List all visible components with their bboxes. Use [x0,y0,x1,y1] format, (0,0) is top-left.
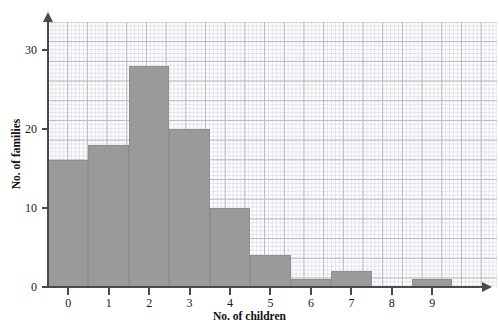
y-axis-arrow-icon [43,12,53,22]
x-axis-title: No. of children [0,310,499,322]
x-tick-label-9: 9 [417,297,447,309]
y-tick-label-0: 0 [0,281,37,293]
y-axis-title: No. of families [10,94,22,214]
plot-area [48,22,497,287]
x-tick-label-4: 4 [215,297,245,309]
x-tick-8 [391,288,393,295]
x-tick-label-6: 6 [296,297,326,309]
bar-2 [129,66,169,287]
y-tick-0 [42,286,49,288]
histogram-chart: 0102030 0123456789 No. of children No. o… [0,0,499,329]
x-tick-1 [108,288,110,295]
clipped-caption [96,0,396,2]
bar-1 [88,145,128,287]
y-axis-line [47,20,49,288]
x-tick-label-8: 8 [377,297,407,309]
bar-3 [169,129,209,287]
x-axis-arrow-icon [482,282,492,292]
x-tick-9 [431,288,433,295]
x-tick-4 [229,288,231,295]
x-tick-label-5: 5 [255,297,285,309]
x-tick-2 [148,288,150,295]
x-tick-label-0: 0 [53,297,83,309]
x-tick-7 [350,288,352,295]
bar-7 [331,271,371,287]
y-tick-label-30: 30 [0,44,37,56]
x-tick-0 [67,288,69,295]
x-axis-line [47,286,484,288]
x-tick-3 [189,288,191,295]
x-tick-5 [269,288,271,295]
x-tick-label-7: 7 [336,297,366,309]
bar-5 [250,255,290,287]
x-tick-label-2: 2 [134,297,164,309]
y-tick-30 [42,49,49,51]
y-tick-10 [42,207,49,209]
x-tick-6 [310,288,312,295]
bar-4 [210,208,250,287]
x-tick-label-1: 1 [94,297,124,309]
y-tick-20 [42,128,49,130]
bar-0 [48,160,88,287]
x-tick-label-3: 3 [175,297,205,309]
